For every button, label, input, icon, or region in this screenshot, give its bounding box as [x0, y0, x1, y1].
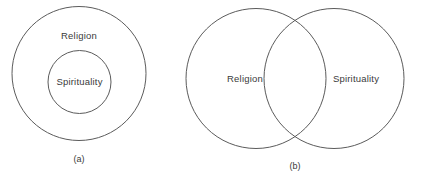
venn-figure: Religion Spirituality (a) Religion Spiri…: [0, 0, 425, 178]
panel-b-label-spirituality: Spirituality: [333, 73, 379, 84]
panel-a-label-spirituality: Spirituality: [56, 76, 102, 87]
panel-b-caption: (b): [290, 161, 301, 171]
venn-diagram-canvas: Religion Spirituality (a) Religion Spiri…: [0, 0, 425, 178]
panel-a-label-religion: Religion: [61, 30, 97, 41]
panel-a: Religion Spirituality (a): [12, 7, 146, 165]
panel-a-outer-circle-religion: [12, 7, 146, 141]
panel-a-caption: (a): [74, 154, 85, 164]
panel-b: Religion Spirituality (b): [186, 9, 404, 172]
panel-b-label-religion: Religion: [227, 73, 263, 84]
